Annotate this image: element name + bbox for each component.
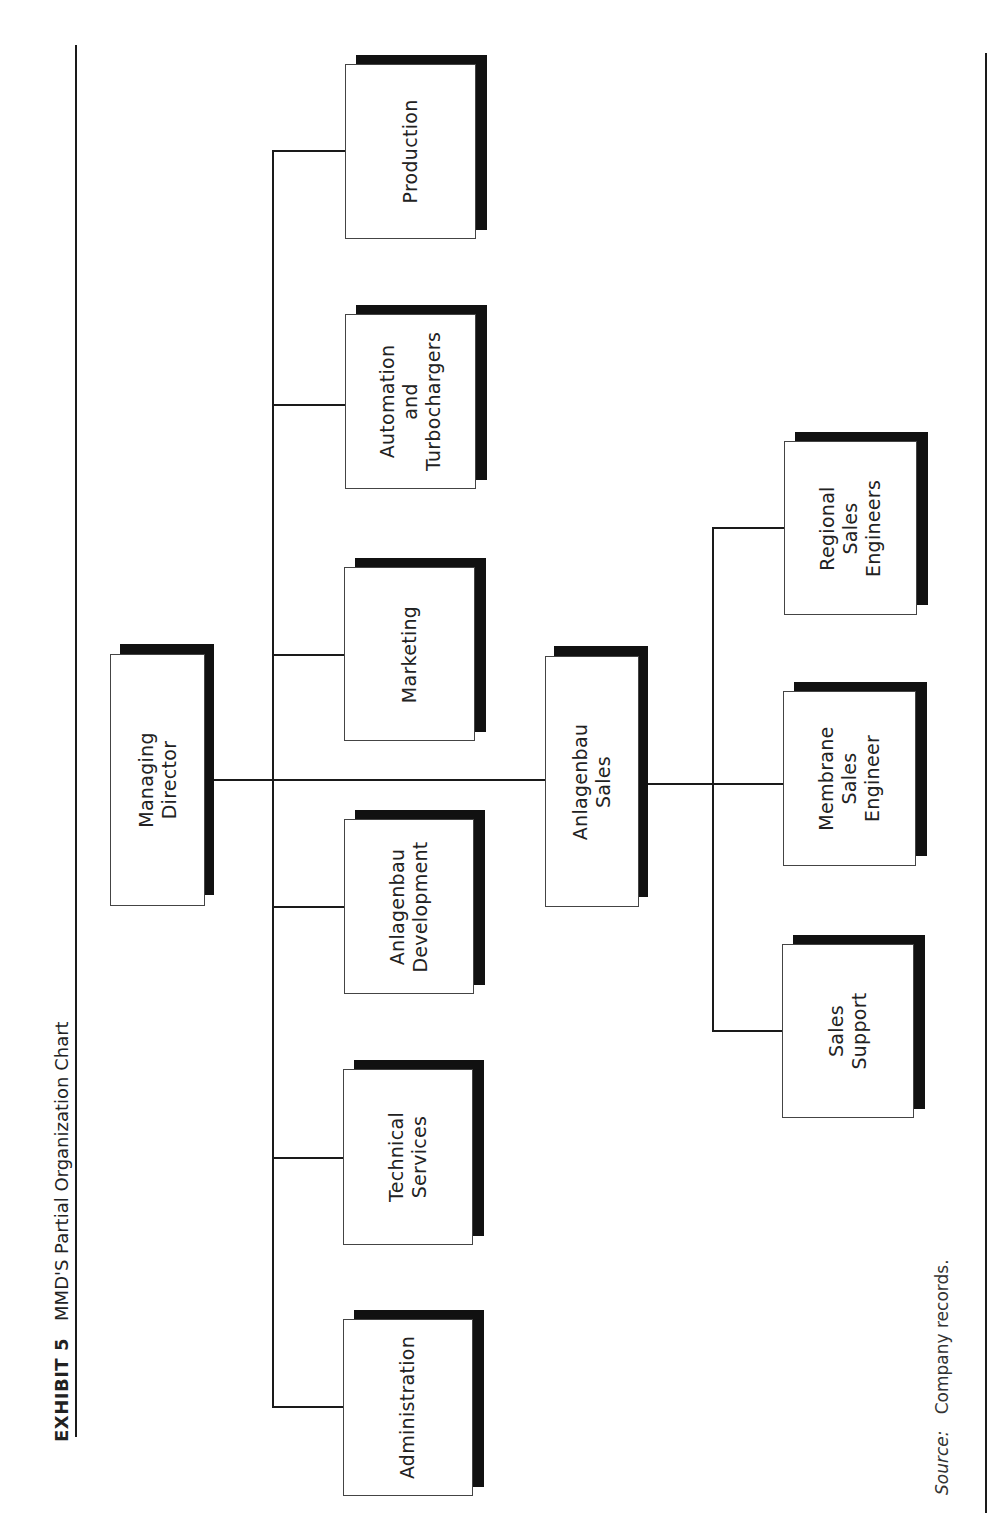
anlagenbau-sales-label: Anlagenbau Sales <box>569 723 615 840</box>
administration-box[interactable]: Administration <box>343 1319 473 1496</box>
source-note: Source: Company records. <box>932 1259 952 1495</box>
sales-to-units-connector <box>648 783 784 785</box>
connector-anlagenbau-development <box>272 906 345 908</box>
regional-sales-engineers-label: Regional Sales Engineers <box>816 479 885 576</box>
regional-sales-engineers-box[interactable]: Regional Sales Engineers <box>784 441 917 615</box>
connector-marketing <box>272 654 345 656</box>
technical-services-label: Technical Services <box>385 1112 431 1202</box>
left-rule <box>75 45 77 1437</box>
sales-spine <box>712 527 714 1032</box>
right-rule <box>985 53 987 1513</box>
connector-regional-sales <box>712 527 784 529</box>
connector-production <box>272 150 345 152</box>
membrane-sales-engineer-label: Membrane Sales Engineer <box>815 726 884 830</box>
source-text: Company records. <box>932 1259 952 1414</box>
connector-technical-services <box>272 1157 345 1159</box>
exhibit-title: EXHIBIT 5 MMD'S Partial Organization Cha… <box>51 1021 72 1442</box>
production-label: Production <box>399 99 422 203</box>
connector-administration <box>272 1406 345 1408</box>
exhibit-number: EXHIBIT 5 <box>51 1338 72 1442</box>
automation-box[interactable]: Automation and Turbochargers <box>345 314 476 489</box>
administration-label: Administration <box>397 1336 420 1479</box>
marketing-box[interactable]: Marketing <box>344 567 475 741</box>
anlagenbau-sales-box[interactable]: Anlagenbau Sales <box>545 656 639 907</box>
anlagenbau-development-label: Anlagenbau Development <box>386 841 432 972</box>
source-label: Source: <box>932 1431 952 1496</box>
managing-director-box[interactable]: Managing Director <box>110 654 205 906</box>
production-box[interactable]: Production <box>345 64 476 239</box>
exhibit-title-text: MMD'S Partial Organization Chart <box>51 1021 72 1321</box>
marketing-label: Marketing <box>398 605 421 702</box>
managing-director-label: Managing Director <box>135 732 181 828</box>
md-to-sales-connector <box>204 779 545 781</box>
sales-support-label: Sales Support <box>825 992 871 1069</box>
technical-services-box[interactable]: Technical Services <box>343 1069 473 1245</box>
membrane-sales-engineer-box[interactable]: Membrane Sales Engineer <box>783 691 916 866</box>
anlagenbau-development-box[interactable]: Anlagenbau Development <box>344 819 474 994</box>
automation-label: Automation and Turbochargers <box>376 332 445 471</box>
connector-sales-support <box>712 1030 784 1032</box>
sales-support-box[interactable]: Sales Support <box>782 944 914 1118</box>
connector-automation <box>272 404 345 406</box>
